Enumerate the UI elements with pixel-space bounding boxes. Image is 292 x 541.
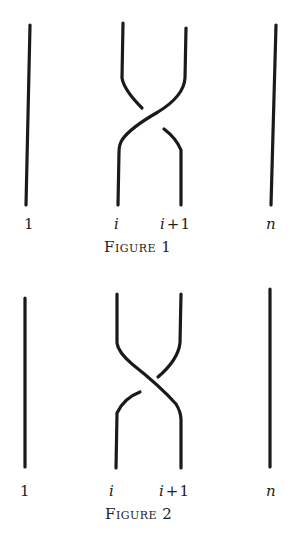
figure-2: 1 i i+1 n FIGURE2 — [20, 289, 276, 523]
label-i: i — [114, 215, 119, 233]
strand-i-upper — [122, 23, 142, 108]
label-i-plus-1: i+1 — [160, 215, 190, 233]
label-i-plus-1: i+1 — [159, 482, 189, 500]
strand-i-over — [117, 294, 181, 468]
label-i: i — [109, 482, 114, 500]
strand-n — [271, 25, 276, 205]
strand-i-plus-1-over — [118, 28, 186, 205]
label-1: 1 — [24, 215, 34, 233]
label-n: n — [266, 215, 276, 233]
strand-i-plus-1-upper — [158, 294, 181, 377]
figure-1: 1 i i+1 n FIGURE1 — [24, 23, 276, 256]
strand-i-plus-1-lower — [116, 392, 140, 468]
strand-1 — [26, 25, 30, 205]
strand-i-lower — [164, 129, 181, 205]
braid-diagrams: 1 i i+1 n FIGURE1 1 i i+1 n FIGURE2 — [0, 0, 292, 541]
figure-2-caption: FIGURE2 — [105, 505, 172, 523]
label-n: n — [266, 482, 276, 500]
figure-1-caption: FIGURE1 — [104, 238, 171, 256]
label-1: 1 — [20, 482, 30, 500]
